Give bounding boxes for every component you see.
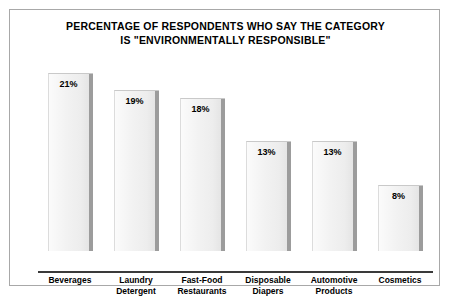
category-label-laundry-detergent-line-2: Detergent: [103, 286, 169, 297]
bar-slot-fast-food-restaurants: 18%: [169, 30, 235, 251]
plot-area: 21% 19% 18% 13%: [37, 30, 433, 252]
category-label-fast-food-restaurants: Fast-Food Restaurants: [169, 275, 235, 297]
bar-laundry-detergent[interactable]: 19%: [114, 90, 159, 251]
bar-value-automotive-products: 13%: [313, 147, 353, 157]
bar-chart-figure: PERCENTAGE OF RESPONDENTS WHO SAY THE CA…: [0, 0, 451, 307]
category-label-cosmetics: Cosmetics: [367, 275, 433, 297]
bar-slot-cosmetics: 8%: [367, 30, 433, 251]
category-label-disposable-diapers: Disposable Diapers: [235, 275, 301, 297]
source-note: [0, 299, 441, 307]
category-label-disposable-diapers-line-2: Diapers: [235, 286, 301, 297]
bar-cosmetics[interactable]: 8%: [378, 185, 423, 251]
category-label-automotive-products: Automotive Products: [301, 275, 367, 297]
bar-slot-disposable-diapers: 13%: [235, 30, 301, 251]
category-label-laundry-detergent-line-1: Laundry: [103, 275, 169, 286]
bars-row: 21% 19% 18% 13%: [37, 30, 433, 251]
category-label-fast-food-restaurants-line-1: Fast-Food: [169, 275, 235, 286]
bar-slot-beverages: 21%: [37, 30, 103, 251]
category-label-disposable-diapers-line-1: Disposable: [235, 275, 301, 286]
category-label-automotive-products-line-1: Automotive: [301, 275, 367, 286]
category-label-cosmetics-line-1: Cosmetics: [367, 275, 433, 286]
chart-frame: PERCENTAGE OF RESPONDENTS WHO SAY THE CA…: [9, 9, 440, 286]
category-axis-labels: Beverages Laundry Detergent Fast-Food Re…: [37, 275, 433, 297]
category-label-automotive-products-line-2: Products: [301, 286, 367, 297]
bar-value-laundry-detergent: 19%: [115, 96, 155, 106]
category-label-beverages: Beverages: [37, 275, 103, 297]
bar-value-cosmetics: 8%: [379, 191, 419, 201]
x-axis-line: [38, 271, 433, 273]
bar-disposable-diapers[interactable]: 13%: [246, 141, 291, 251]
bar-fast-food-restaurants[interactable]: 18%: [180, 98, 225, 251]
category-label-fast-food-restaurants-line-2: Restaurants: [169, 286, 235, 297]
category-label-laundry-detergent: Laundry Detergent: [103, 275, 169, 297]
bar-beverages[interactable]: 21%: [48, 73, 93, 251]
bar-slot-automotive-products: 13%: [301, 30, 367, 251]
bar-value-fast-food-restaurants: 18%: [181, 104, 221, 114]
category-label-beverages-line-1: Beverages: [37, 275, 103, 286]
bar-value-disposable-diapers: 13%: [247, 147, 287, 157]
bar-value-beverages: 21%: [49, 79, 89, 89]
bar-slot-laundry-detergent: 19%: [103, 30, 169, 251]
bar-automotive-products[interactable]: 13%: [312, 141, 357, 251]
